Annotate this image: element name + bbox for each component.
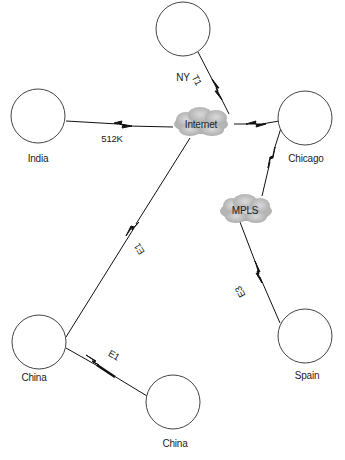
node-china2-label: China (162, 438, 187, 449)
link-india-internet (66, 121, 173, 128)
node-india-circle (11, 89, 65, 143)
cloud-internet-label: Internet (185, 119, 217, 130)
node-ny-label: NY (176, 72, 190, 83)
node-china1-circle (12, 315, 66, 369)
node-spain-label: Spain (295, 370, 320, 381)
node-spain-circle (278, 309, 332, 363)
link-internet-china1 (66, 138, 190, 337)
node-india-label: India (28, 153, 49, 164)
node-china2-circle (146, 375, 200, 429)
node-chicago-circle (278, 91, 332, 145)
node-ny-circle (156, 2, 210, 56)
node-china1-label: China (21, 372, 46, 383)
network-diagram (0, 0, 345, 460)
link-chicago-mpls (262, 128, 281, 196)
link-label-india-internet: 512K (101, 133, 122, 144)
link-internet-chicago (234, 121, 279, 127)
link-mpls-spain (240, 222, 280, 323)
node-chicago-label: Chicago (288, 153, 323, 164)
cloud-mpls-label: MPLS (232, 205, 258, 216)
